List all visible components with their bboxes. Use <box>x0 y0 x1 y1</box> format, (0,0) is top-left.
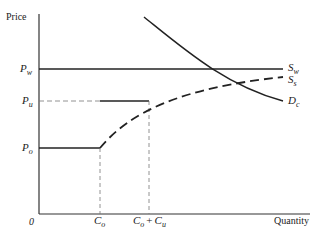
x-axis-label: Quantity <box>274 215 309 226</box>
origin-label: 0 <box>29 216 34 227</box>
co-label: Co <box>94 214 105 229</box>
po-label: Po <box>21 141 33 156</box>
pu-label: Pu <box>21 94 33 109</box>
pw-label: Pw <box>19 62 33 77</box>
cocu-label: Co+Cu <box>133 214 166 229</box>
domestic-supply-curve <box>100 77 283 148</box>
dc-label: Dc <box>287 94 300 109</box>
supply-demand-diagram: Price Quantity 0 Pw Pu Po Co Co+Cu Sw Ss… <box>0 0 326 240</box>
y-axis-label: Price <box>6 11 27 22</box>
